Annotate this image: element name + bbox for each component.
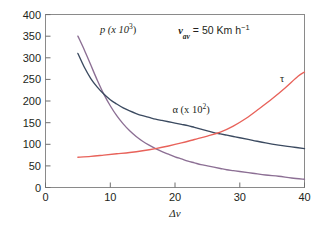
y-tick-label: 300 <box>23 52 41 64</box>
series-curve-alpha <box>78 53 305 148</box>
y-tick-label: 0 <box>35 182 41 194</box>
figure-container: 0 50 100 150 200 250 300 350 400 0 10 20… <box>0 0 335 226</box>
y-tick-label: 50 <box>29 160 41 172</box>
y-tick-label: 400 <box>23 9 41 21</box>
series-label-tau: τ <box>280 73 284 84</box>
annotation-condition: vav = 50 Km h−1 <box>178 23 249 41</box>
y-tick-label: 250 <box>23 73 41 85</box>
series-label-alpha-text: α (x 10 <box>172 104 202 116</box>
y-tick-label: 200 <box>23 95 41 107</box>
x-axis-tick-labels: 0 10 20 30 40 <box>42 191 310 203</box>
chart-plot: 0 50 100 150 200 250 300 350 400 0 10 20… <box>0 0 335 226</box>
x-axis-title: Δv <box>168 207 180 219</box>
x-tick-label: 40 <box>298 191 310 203</box>
y-tick-label: 350 <box>23 30 41 42</box>
y-axis-tick-labels: 0 50 100 150 200 250 300 350 400 <box>23 9 41 194</box>
annotation-sup: −1 <box>241 23 250 32</box>
y-tick-label: 150 <box>23 117 41 129</box>
y-axis-ticks <box>46 15 51 188</box>
series-label-alpha-tail: ) <box>206 104 210 116</box>
series-label-p-text: p (x 10 <box>99 24 130 36</box>
annotation-rest: = 50 Km h <box>190 24 241 36</box>
series-label-p-tail: ) <box>133 24 137 36</box>
plot-frame <box>46 15 305 188</box>
x-axis-ticks <box>46 183 305 188</box>
x-tick-label: 0 <box>42 191 48 203</box>
x-tick-label: 20 <box>169 191 181 203</box>
series-label-alpha: α (x 102) <box>172 102 210 117</box>
series-label-p: p (x 103) <box>99 22 137 37</box>
y-tick-label: 100 <box>23 138 41 150</box>
x-tick-label: 10 <box>104 191 116 203</box>
x-tick-label: 30 <box>234 191 246 203</box>
